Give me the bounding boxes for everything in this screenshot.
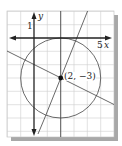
center-point-label: (2, −3) (64, 72, 96, 81)
coordinate-graph (0, 0, 122, 146)
y-axis-label: y (38, 12, 43, 21)
x-tick-label-5: 5 (97, 41, 103, 50)
x-axis-label: x (104, 41, 109, 50)
y-tick-label-1: 1 (27, 22, 33, 31)
center-point (58, 76, 63, 81)
